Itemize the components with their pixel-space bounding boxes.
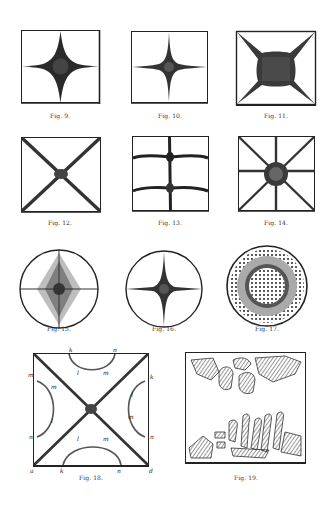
fig18-letter-m-left2: m [51,383,57,390]
fig18-letter-a: a [30,467,34,474]
figure-18: k n l m m m l n k l m n l m a k n d [33,353,149,467]
caption-fig19: Fig. 19. [234,474,258,481]
figure-14 [238,136,315,212]
figure-12 [21,137,101,213]
fig18-letter-m-top: m [103,369,109,376]
fig11-x-drawing [236,31,316,106]
caption-fig17: Fig. 17. [255,325,279,332]
figure-16 [125,250,203,328]
fig18-letter-l-left: l [51,417,53,424]
figure-17 [226,245,308,327]
caption-fig9: Fig. 9. [50,112,70,119]
figure-9 [21,30,100,104]
fig18-letter-m-bottom: m [103,435,109,442]
fig18-letter-m-right: m [128,413,134,420]
fig18-lettered-drawing: k n l m m m l n k l m n l m a k n d [33,353,149,467]
caption-fig18: Fig. 18. [79,474,103,481]
fig10-cross-drawing [131,31,208,104]
fig18-letter-n-top: n [113,346,117,353]
fig18-letter-l-bottom: l [77,435,79,442]
fig15-circle-drawing [19,249,99,329]
fig19-crystals-drawing [185,352,306,464]
fig18-letter-n-right: n [150,433,154,440]
fig18-letter-m-left: m [28,371,34,378]
caption-fig13: Fig. 13. [158,219,182,226]
caption-fig16: Fig. 16. [152,325,176,332]
fig18-letter-l-right: l [131,391,133,398]
fig18-letter-l-top: l [77,369,79,376]
caption-fig11: Fig. 11. [264,112,288,119]
fig16-circle-drawing [125,250,203,328]
fig9-star-drawing [21,30,100,104]
fig18-letter-k-right: k [150,373,154,380]
fig13-grid-drawing [132,136,209,212]
figure-15 [19,249,99,329]
fig18-letter-d: d [149,467,153,474]
caption-fig14: Fig. 14. [264,219,288,226]
fig18-letter-n-bottom: n [117,467,121,474]
fig17-rings-drawing [226,245,308,327]
figure-19 [185,352,306,464]
caption-fig10: Fig. 10. [158,112,182,119]
figure-11 [236,31,316,106]
caption-fig12: Fig. 12. [48,219,72,226]
fig18-letter-k-bottom: k [60,467,64,474]
figure-13 [132,136,209,212]
fig18-letter-n-left: n [29,433,33,440]
fig18-letter-k-top: k [69,346,73,353]
caption-fig15: Fig. 15. [47,325,71,332]
figure-10 [131,31,208,104]
fig12-x-drawing [21,137,101,213]
fig14-star-drawing [238,136,315,212]
